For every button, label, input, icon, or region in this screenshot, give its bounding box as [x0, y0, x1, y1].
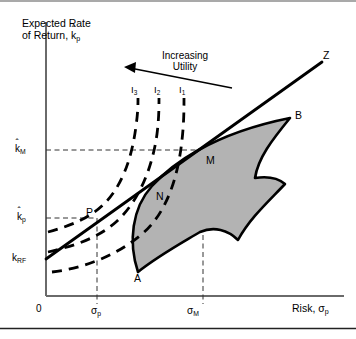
point-label-p: P — [86, 207, 93, 219]
x-tick-sigma-p-sub: p — [97, 310, 101, 317]
y-tick-krf-sub: RF — [17, 257, 26, 264]
y-axis-title-subscript: p — [76, 35, 80, 43]
point-label-z: Z — [323, 50, 329, 62]
point-label-n: N — [156, 191, 164, 203]
curve-i1-sub: 1 — [182, 89, 186, 96]
x-axis-title-sub: p — [325, 308, 329, 316]
y-axis-title-line1: Expected Rate — [22, 17, 91, 29]
figure-container: Expected Rate of Return, kp kM kp kRF 0 … — [0, 0, 356, 339]
y-tick-kp-sub: p — [22, 216, 26, 223]
curve-label-i1: I1 — [179, 85, 185, 96]
point-label-m: M — [206, 155, 215, 167]
increasing-utility-arrowhead — [124, 62, 136, 73]
x-axis-title: Risk, σp — [292, 303, 329, 315]
origin-label: 0 — [36, 303, 42, 314]
curve-i2-sub: 2 — [157, 89, 161, 96]
point-label-b: B — [295, 110, 302, 122]
x-axis-title-sigma: σ — [318, 302, 324, 314]
x-tick-label-sigma-p: σp — [91, 305, 101, 316]
increasing-utility-line2: Utility — [173, 61, 197, 72]
curve-i3-sub: 3 — [134, 89, 138, 96]
y-tick-label-kp: kp — [17, 211, 26, 222]
x-axis-title-prefix: Risk, — [292, 302, 318, 314]
y-tick-km-sub: M — [20, 148, 26, 155]
curve-label-i3: I3 — [131, 85, 137, 96]
x-tick-label-sigma-m: σM — [187, 305, 199, 316]
point-label-a: A — [134, 273, 141, 285]
x-tick-sigma-m-sub: M — [193, 310, 199, 317]
increasing-utility-line1: Increasing — [162, 50, 208, 61]
y-tick-label-krf: kRF — [12, 252, 26, 263]
curve-label-i2: I2 — [154, 85, 160, 96]
y-tick-label-km: kM — [15, 143, 26, 154]
y-axis-title: Expected Rate of Return, kp — [22, 18, 91, 42]
y-axis-title-line2-prefix: of Return, — [22, 29, 71, 41]
increasing-utility-annotation: Increasing Utility — [162, 50, 208, 72]
